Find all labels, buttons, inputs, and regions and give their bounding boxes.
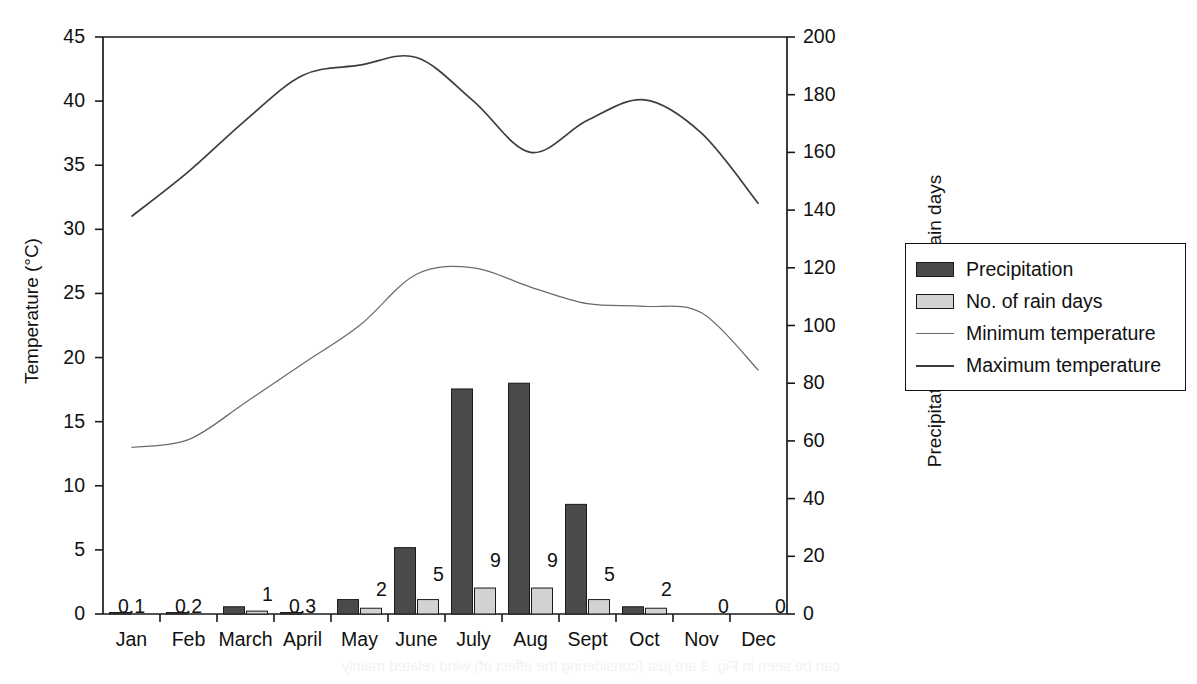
right-tick-label: 180: [803, 83, 863, 106]
legend-item-maximum-temperature: Maximum temperature: [906, 349, 1185, 381]
bar-data-label: 0: [698, 595, 750, 618]
legend-item-precipitation: Precipitation: [906, 253, 1185, 285]
bar-data-label: 0.2: [163, 595, 215, 618]
right-tick-label: 160: [803, 140, 863, 163]
bar-data-label: 5: [584, 563, 636, 586]
left-tick-label: 0: [39, 602, 85, 625]
thin-line-swatch-icon: [916, 326, 954, 341]
legend-item-rain-days: No. of rain days: [906, 285, 1185, 317]
minimum-temperature-line: [132, 266, 759, 447]
scan-bleedthrough-artifact: can be seen in Fig. 3 are just (consider…: [150, 657, 840, 679]
legend-label-precipitation: Precipitation: [966, 258, 1073, 281]
maximum-temperature-line: [132, 56, 759, 217]
right-tick-label: 120: [803, 256, 863, 279]
left-axis-ticks: [95, 37, 103, 614]
left-tick-label: 5: [39, 538, 85, 561]
plot-frame: [103, 37, 787, 614]
thick-line-swatch-icon: [916, 358, 954, 373]
right-tick-label: 40: [803, 487, 863, 510]
x-axis-ticks: [160, 614, 730, 622]
light-bar-swatch-icon: [916, 294, 954, 309]
bar-data-label: 2: [356, 578, 408, 601]
right-tick-label: 60: [803, 429, 863, 452]
right-tick-label: 20: [803, 544, 863, 567]
right-tick-label: 200: [803, 25, 863, 48]
legend-label-maximum-temperature: Maximum temperature: [966, 354, 1161, 377]
x-axis-month-label: Dec: [714, 628, 804, 651]
bar-data-label: 9: [470, 549, 522, 572]
climate-chart-figure: Temperature (°C) Precipitation (mm)/No. …: [0, 0, 1197, 684]
left-tick-label: 25: [39, 281, 85, 304]
right-tick-label: 80: [803, 371, 863, 394]
right-tick-label: 140: [803, 198, 863, 221]
legend-label-rain-days: No. of rain days: [966, 290, 1103, 313]
left-tick-label: 10: [39, 474, 85, 497]
left-tick-label: 40: [39, 89, 85, 112]
left-tick-label: 45: [39, 25, 85, 48]
legend-label-minimum-temperature: Minimum temperature: [966, 322, 1156, 345]
left-tick-label: 35: [39, 153, 85, 176]
right-tick-label: 0: [803, 602, 863, 625]
bar-data-label: 5: [413, 563, 465, 586]
bar-data-label: 9: [527, 549, 579, 572]
bar-data-label: 0.1: [106, 595, 158, 618]
bar-data-label: 0.3: [277, 595, 329, 618]
legend-item-minimum-temperature: Minimum temperature: [906, 317, 1185, 349]
right-axis-ticks: [787, 37, 795, 614]
dark-bar-swatch-icon: [916, 262, 954, 277]
left-tick-label: 20: [39, 346, 85, 369]
bar-data-label: 2: [641, 578, 693, 601]
chart-legend: Precipitation No. of rain days Minimum t…: [905, 243, 1186, 391]
left-tick-label: 30: [39, 217, 85, 240]
left-tick-label: 15: [39, 410, 85, 433]
bar-data-label: 0: [755, 595, 807, 618]
right-tick-label: 100: [803, 314, 863, 337]
